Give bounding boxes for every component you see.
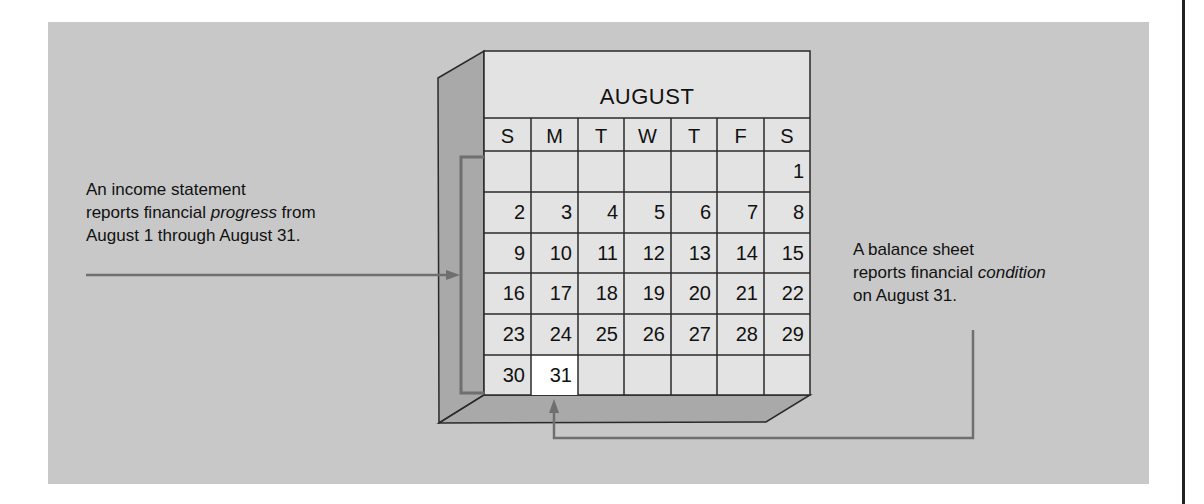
caption-line: A balance sheet bbox=[853, 238, 1153, 261]
calendar-day-7: 7 bbox=[717, 192, 764, 233]
emphasis-condition: condition bbox=[978, 263, 1046, 282]
calendar-day-26: 26 bbox=[624, 314, 671, 355]
calendar-day-12: 12 bbox=[624, 233, 671, 273]
calendar-day-31: 31 bbox=[531, 355, 578, 395]
weekday-header: F bbox=[717, 121, 764, 151]
calendar-day-14: 14 bbox=[717, 233, 764, 273]
calendar-day-23: 23 bbox=[484, 314, 531, 355]
calendar-day-17: 17 bbox=[531, 273, 578, 314]
calendar-day-15: 15 bbox=[764, 233, 810, 273]
caption-line: August 1 through August 31. bbox=[86, 224, 426, 247]
balance-sheet-caption: A balance sheet reports financial condit… bbox=[853, 238, 1153, 307]
calendar-empty-cell bbox=[624, 355, 671, 395]
calendar-day-10: 10 bbox=[531, 233, 578, 273]
caption-line: reports financial progress from bbox=[86, 201, 426, 224]
weekday-header: M bbox=[531, 121, 578, 151]
calendar-empty-cell bbox=[671, 355, 717, 395]
calendar-day-29: 29 bbox=[764, 314, 810, 355]
calendar-empty-cell bbox=[578, 151, 624, 192]
calendar-month-title: AUGUST bbox=[484, 84, 810, 110]
calendar-day-13: 13 bbox=[671, 233, 717, 273]
calendar-day-18: 18 bbox=[578, 273, 624, 314]
caption-line: An income statement bbox=[86, 178, 426, 201]
calendar-day-16: 16 bbox=[484, 273, 531, 314]
calendar-day-30: 30 bbox=[484, 355, 531, 395]
calendar-empty-cell bbox=[624, 151, 671, 192]
weekday-header: S bbox=[764, 121, 810, 151]
calendar-day-8: 8 bbox=[764, 192, 810, 233]
calendar-day-27: 27 bbox=[671, 314, 717, 355]
calendar-day-22: 22 bbox=[764, 273, 810, 314]
weekday-header: T bbox=[671, 121, 717, 151]
calendar-day-5: 5 bbox=[624, 192, 671, 233]
weekday-header: W bbox=[624, 121, 671, 151]
calendar-day-6: 6 bbox=[671, 192, 717, 233]
calendar-empty-cell bbox=[717, 151, 764, 192]
income-statement-caption: An income statement reports financial pr… bbox=[86, 178, 426, 247]
calendar-day-21: 21 bbox=[717, 273, 764, 314]
calendar-empty-cell bbox=[717, 355, 764, 395]
calendar-day-4: 4 bbox=[578, 192, 624, 233]
calendar-day-2: 2 bbox=[484, 192, 531, 233]
calendar-day-1: 1 bbox=[764, 151, 810, 192]
caption-line: on August 31. bbox=[853, 284, 1153, 307]
calendar-empty-cell bbox=[764, 355, 810, 395]
calendar-day-25: 25 bbox=[578, 314, 624, 355]
calendar-day-9: 9 bbox=[484, 233, 531, 273]
calendar-day-19: 19 bbox=[624, 273, 671, 314]
caption-line: reports financial condition bbox=[853, 261, 1153, 284]
calendar-bottom-face bbox=[439, 395, 810, 423]
calendar-day-3: 3 bbox=[531, 192, 578, 233]
calendar-day-24: 24 bbox=[531, 314, 578, 355]
calendar-day-20: 20 bbox=[671, 273, 717, 314]
calendar-day-11: 11 bbox=[578, 233, 624, 273]
weekday-header: S bbox=[484, 121, 531, 151]
calendar-empty-cell bbox=[531, 151, 578, 192]
calendar-empty-cell bbox=[484, 151, 531, 192]
calendar-day-28: 28 bbox=[717, 314, 764, 355]
calendar-empty-cell bbox=[671, 151, 717, 192]
calendar-empty-cell bbox=[578, 355, 624, 395]
emphasis-progress: progress bbox=[211, 203, 277, 222]
weekday-header: T bbox=[578, 121, 624, 151]
